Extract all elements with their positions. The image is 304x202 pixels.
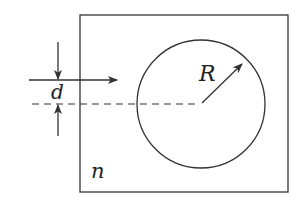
diagram-canvas [0, 0, 304, 202]
refractive-index-label: n [91, 161, 105, 182]
radius-label: R [199, 63, 216, 85]
offset-label: d [51, 82, 64, 102]
